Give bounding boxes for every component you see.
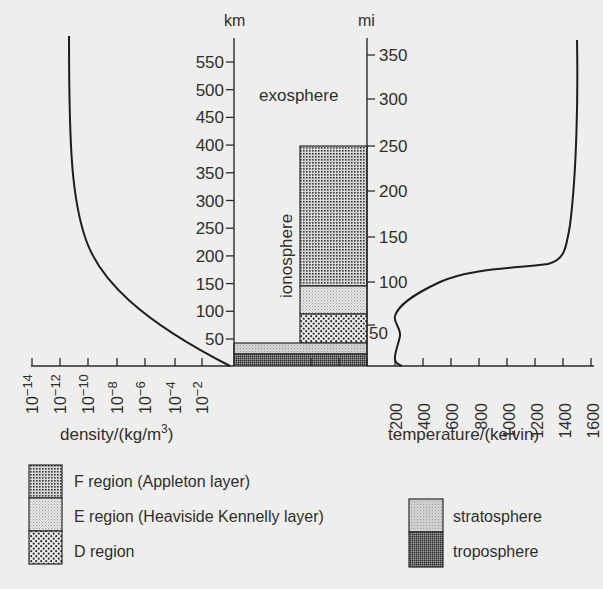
- km-axis: km 550 500 450 400 350 300 250 200 150 1…: [196, 12, 246, 366]
- density-tick-label: 10−8: [105, 381, 126, 414]
- stratosphere-block: [234, 343, 367, 354]
- mi-tick-label: 150: [379, 228, 407, 247]
- km-tick-label: 300: [196, 192, 224, 211]
- ionosphere-label: ionosphere: [277, 214, 296, 298]
- km-tick-label: 400: [196, 136, 224, 155]
- mi-tick-label: 100: [379, 273, 407, 292]
- troposphere-block: [234, 354, 367, 366]
- density-tick-label: 10−4: [163, 381, 184, 414]
- temp-tick-label: 1400: [557, 403, 574, 439]
- density-tick-label: 10−10: [76, 374, 97, 414]
- temperature-axis: 200 400 600 800 1000 1200 1400 1600 temp…: [311, 358, 602, 444]
- km-axis-label: km: [224, 12, 245, 29]
- km-tick-label: 50: [205, 330, 224, 349]
- legend-label-stratosphere: stratosphere: [453, 508, 542, 525]
- temperature-curve: [395, 40, 578, 366]
- density-axis-label: density/(kg/m3): [60, 422, 173, 444]
- legend-swatch-stratosphere: [409, 499, 443, 532]
- f-region-block: [300, 146, 367, 286]
- km-tick-label: 250: [196, 219, 224, 238]
- layer-blocks: [234, 146, 367, 366]
- density-axis: 10−14 10−12 10−10 10−8 10−6 10−4 10−2 de…: [20, 358, 234, 444]
- legend-label-e-region: E region (Heaviside Kennelly layer): [74, 508, 324, 525]
- temp-tick-label: 1600: [585, 403, 602, 439]
- km-tick-label: 500: [196, 81, 224, 100]
- mi-tick-label: 50: [369, 324, 388, 343]
- km-tick-label: 200: [196, 247, 224, 266]
- km-tick-label: 150: [196, 275, 224, 294]
- exosphere-label: exosphere: [259, 86, 338, 105]
- mi-tick-label: 200: [379, 182, 407, 201]
- km-tick-label: 350: [196, 164, 224, 183]
- density-tick-label: 10−2: [190, 381, 211, 414]
- legend-swatch-e-region: [29, 498, 62, 531]
- density-tick-label: 10−6: [133, 381, 154, 414]
- legend-label-d-region: D region: [74, 543, 134, 560]
- km-tick-label: 450: [196, 108, 224, 127]
- mi-axis-label: mi: [358, 12, 375, 29]
- legend-swatch-troposphere: [409, 532, 443, 567]
- temperature-axis-label: temperature/(kelvin): [388, 425, 539, 444]
- density-tick-label: 10−14: [20, 374, 41, 414]
- km-tick-label: 550: [196, 53, 224, 72]
- legend-swatch-d-region: [29, 531, 62, 564]
- mi-tick-label: 350: [379, 46, 407, 65]
- density-tick-label: 10−12: [48, 374, 69, 414]
- legend-swatch-f-region: [29, 465, 62, 498]
- km-tick-label: 100: [196, 302, 224, 321]
- mi-tick-label: 250: [379, 137, 407, 156]
- e-region-block: [300, 286, 367, 314]
- legend: F region (Appleton layer) E region (Heav…: [29, 465, 542, 567]
- mi-tick-label: 300: [379, 90, 407, 109]
- legend-label-troposphere: troposphere: [453, 543, 538, 560]
- atmosphere-diagram: km 550 500 450 400 350 300 250 200 150 1…: [0, 0, 603, 589]
- legend-label-f-region: F region (Appleton layer): [74, 473, 250, 490]
- d-region-block: [300, 314, 367, 343]
